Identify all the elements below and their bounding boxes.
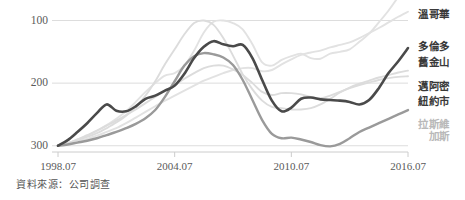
legend-item-san-francisco: 舊金山 <box>418 56 450 68</box>
x-axis-tick-1998: 1998.07 <box>28 160 88 172</box>
x-axis-tick-2004: 2004.07 <box>145 160 205 172</box>
source-note: 資料來源：公司調查 <box>16 176 111 191</box>
legend-item-las-vegas-line2: 加斯 <box>418 130 450 142</box>
legend-item-miami: 邁阿密 <box>418 80 450 92</box>
y-axis-tick-100: 100 <box>18 14 48 26</box>
y-axis-tick-200: 200 <box>18 76 48 88</box>
legend-item-toronto: 多倫多 <box>418 40 450 52</box>
series-line-las-vegas <box>58 53 408 146</box>
data-series-lines <box>58 0 408 146</box>
legend-item-vancouver: 溫哥華 <box>418 8 450 20</box>
axis-lines <box>52 152 408 157</box>
legend-item-las-vegas: 拉斯維 加斯 <box>418 118 450 142</box>
x-axis-tick-2010: 2010.07 <box>261 160 321 172</box>
x-axis-tick-2016: 2016.07 <box>378 160 438 172</box>
chart-container: 300 200 100 1998.07 2004.07 2010.07 2016… <box>0 0 465 200</box>
y-axis-tick-300: 300 <box>18 139 48 151</box>
legend-item-las-vegas-line1: 拉斯維 <box>418 118 450 130</box>
legend-item-new-york-city: 紐約市 <box>418 95 450 107</box>
